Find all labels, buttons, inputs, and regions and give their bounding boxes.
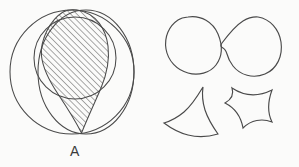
panel-b: B [150,0,299,167]
figure-b-drawing [150,0,299,145]
teardrop-blob-top-right [221,17,281,76]
figure-container: A B [0,0,299,167]
rounded-blob-top-left [166,17,222,74]
panel-a: A [0,0,150,167]
figure-a-drawing [0,0,150,145]
figure-label-a: A [55,143,95,159]
concave-fan-shape-bottom-left [164,87,218,137]
hatched-lens-region [0,0,150,145]
four-pointed-astroid-shape-bottom-right [225,88,272,128]
